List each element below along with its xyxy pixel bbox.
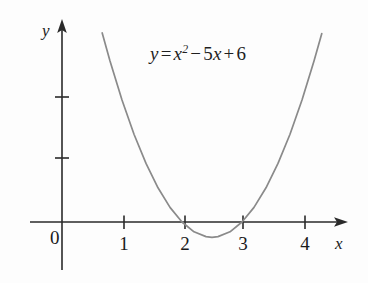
equation-term1-variable: x [174, 43, 183, 64]
y-axis-label: y [42, 22, 50, 39]
equation-term2-variable: x [213, 43, 222, 64]
equation-constant: 6 [236, 43, 246, 64]
equation-term2-coefficient: 5 [203, 43, 213, 64]
x-tick-label-2: 2 [180, 234, 190, 253]
equation-annotation: y=x2−5x+6 [150, 44, 246, 63]
x-axis-label: x [335, 235, 343, 252]
origin-label: 0 [50, 228, 60, 247]
equation-minus-operator: − [188, 43, 203, 64]
equation-lhs: y [150, 43, 159, 64]
equation-plus-operator: + [222, 43, 237, 64]
x-tick-label-4: 4 [300, 234, 310, 253]
parabola-figure: y x 0 1 2 3 4 y=x2−5x+6 [0, 0, 368, 283]
x-tick-label-3: 3 [238, 234, 248, 253]
equation-equals: = [159, 43, 174, 64]
x-tick-label-1: 1 [119, 234, 129, 253]
